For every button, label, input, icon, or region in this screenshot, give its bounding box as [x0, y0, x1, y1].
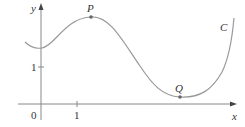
point-q-label: Q — [175, 82, 183, 94]
origin-label: 0 — [31, 109, 37, 121]
y-axis-arrow-icon — [39, 3, 44, 10]
x-tick-label: 1 — [74, 109, 80, 121]
curve-c — [25, 17, 234, 97]
point-p-marker — [89, 15, 93, 19]
point-p-label: P — [86, 2, 94, 14]
y-tick-label: 1 — [31, 61, 37, 73]
graph-canvas: y x 0 1 1 P Q C — [0, 0, 245, 127]
curve-label: C — [220, 21, 228, 33]
y-axis-label: y — [30, 2, 36, 14]
point-q-marker — [178, 95, 182, 99]
function-graph-figure: y x 0 1 1 P Q C — [0, 0, 245, 127]
x-axis-label: x — [231, 110, 237, 122]
x-axis-arrow-icon — [230, 102, 237, 107]
